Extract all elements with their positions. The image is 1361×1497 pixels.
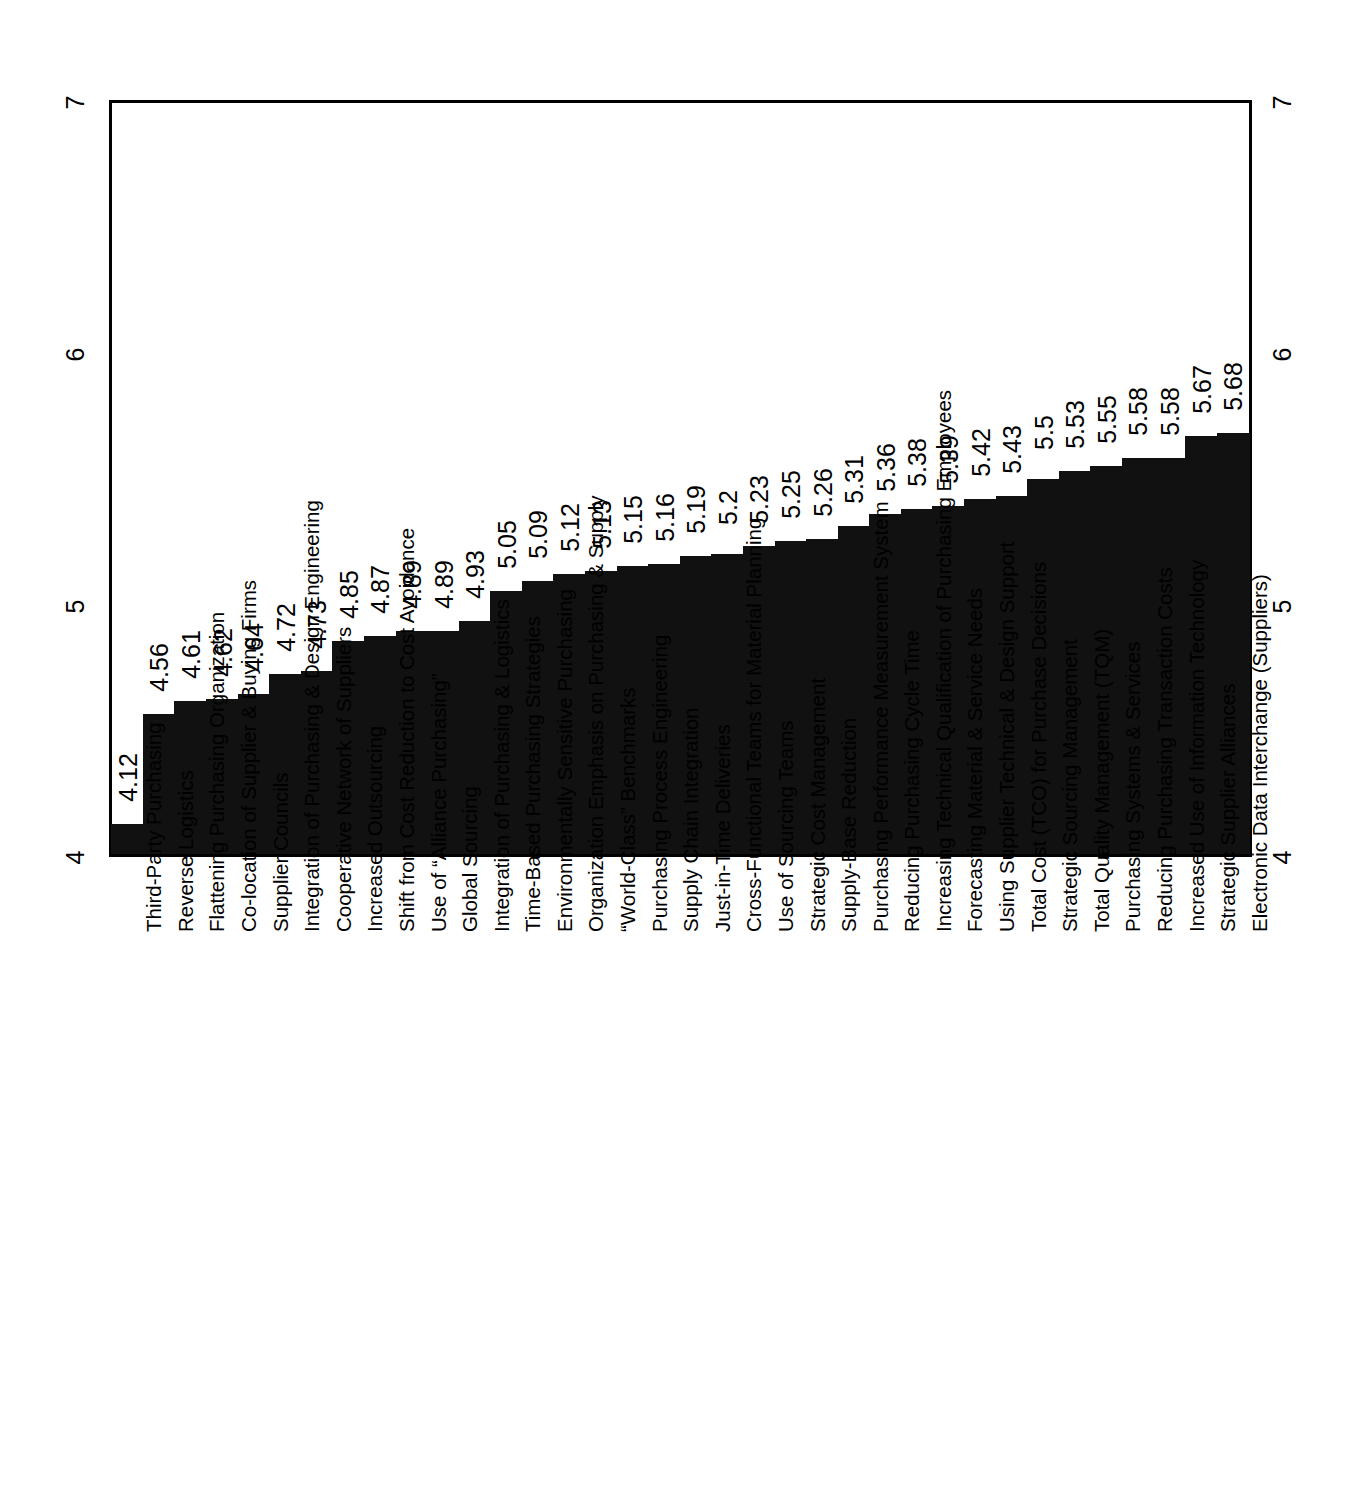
x-axis-label: Purchasing Process Engineering (650, 866, 671, 899)
bar-value-label: 4.56 (147, 643, 172, 692)
x-axis-label-text: Use of Sourcing Teams (776, 899, 797, 932)
bar-value-label: 4.93 (463, 550, 488, 599)
bar-value-label: 5.5 (1031, 415, 1056, 450)
bar-value-label: 5.16 (652, 493, 677, 542)
x-axis-label-text: Increased Outsourcing (365, 899, 386, 932)
x-axis-label: Supply-Base Reduction (839, 866, 860, 899)
bar-value-label: 5.15 (621, 495, 646, 544)
x-axis-label-text: Third-Party Purchasing (144, 899, 165, 932)
x-axis-label-text: Reverse Logistics (176, 899, 197, 932)
x-axis-label: Third-Party Purchasing (144, 866, 165, 899)
y-tick-right-4: 4 (1270, 838, 1295, 878)
bar-value-label: 5.67 (1189, 365, 1214, 414)
x-axis-label-text: Supply Chain Integration (681, 899, 702, 932)
x-axis-label: Increased Outsourcing (365, 866, 386, 899)
x-axis-label-text: Supplier Councils (271, 899, 292, 932)
x-axis-label-text: Environmentally Sensitive Purchasing (555, 899, 576, 932)
x-axis-label-text: Reducing Purchasing Transaction Costs (1155, 899, 1176, 932)
x-axis-label-text: Flattening Purchasing Organization (207, 899, 228, 932)
x-axis-label: Cross-Functional Teams for Material Plan… (744, 866, 765, 899)
bar-value-label: 4.12 (115, 753, 140, 802)
x-axis-label-text: Strategic Cost Management (808, 899, 829, 932)
x-axis-label-text: Time-Based Purchasing Strategies (523, 899, 544, 932)
x-axis-label-text: Increased Use of Information Technology (1187, 899, 1208, 932)
bar-value-label: 5.42 (968, 428, 993, 477)
y-tick-left-4: 4 (63, 838, 88, 878)
bar-value-label: 4.61 (178, 630, 203, 679)
bar-value-label: 5.38 (905, 438, 930, 487)
x-axis-label: Electronic Data Interchange (Suppliers) (1250, 866, 1271, 899)
bar-value-label: 5.43 (1000, 425, 1025, 474)
bar-value-label: 5.58 (1126, 388, 1151, 437)
y-tick-left-6: 6 (63, 335, 88, 375)
x-axis-label-text: Co-location of Supplier & Buying Firms (239, 899, 260, 932)
x-axis-label-text: Cooperative Network of Suppliers (334, 899, 355, 932)
x-axis-label: Strategic Sourcing Management (1060, 866, 1081, 899)
bar-column: 4.72 (269, 103, 302, 854)
x-axis-label: Integration of Purchasing & Design Engin… (302, 866, 323, 899)
bar-value-label: 5.68 (1221, 363, 1246, 412)
bar-value-label: 5.23 (747, 475, 772, 524)
bar-value-label: 5.58 (1158, 388, 1183, 437)
x-axis-label: Purchasing Performance Measurement Syste… (871, 866, 892, 899)
bar-chart-figure: 7 6 5 4 7 6 5 4 4.124.564.614.624.644.72… (0, 0, 1361, 1497)
bar-value-label: 4.85 (336, 570, 361, 619)
x-axis-label: Strategic Cost Management (808, 866, 829, 899)
x-axis-label: Flattening Purchasing Organization (207, 866, 228, 899)
x-axis-label: Just-in-Time Deliveries (713, 866, 734, 899)
x-axis-label-text: Total Quality Management (TQM) (1092, 899, 1113, 932)
x-axis-label: Total Quality Management (TQM) (1092, 866, 1113, 899)
bar-column: 4.93 (459, 103, 492, 854)
x-axis-label-text: Electronic Data Interchange (Suppliers) (1250, 899, 1271, 932)
x-axis-label: Use of Sourcing Teams (776, 866, 797, 899)
bar-value-label: 5.55 (1094, 395, 1119, 444)
x-axis-label: Cooperative Network of Suppliers (334, 866, 355, 899)
x-axis-label: Shift from Cost Reduction to Cost Avoida… (397, 866, 418, 899)
x-axis-label: Time-Based Purchasing Strategies (523, 866, 544, 899)
x-axis-label: Increasing Technical Qualification of Pu… (934, 866, 955, 899)
x-axis-label: Supply Chain Integration (681, 866, 702, 899)
x-axis-label-text: Cross-Functional Teams for Material Plan… (744, 899, 765, 932)
x-axis-label: Strategic Supplier Alliances (1218, 866, 1239, 899)
bar-value-label: 5.19 (684, 485, 709, 534)
x-axis-label-text: Purchasing Performance Measurement Syste… (871, 899, 892, 932)
bar-value-label: 4.87 (368, 565, 393, 614)
bar-value-label: 4.89 (431, 560, 456, 609)
x-axis-label-text: Forecasting Material & Service Needs (965, 899, 986, 932)
x-axis-label: “World-Class” Benchmarks (618, 866, 639, 899)
x-axis-label-text: Increasing Technical Qualification of Pu… (934, 899, 955, 932)
bar-value-label: 5.12 (557, 503, 582, 552)
bar-value-label: 5.26 (810, 468, 835, 517)
x-axis-label-text: Reducing Purchasing Cycle Time (902, 899, 923, 932)
x-axis-label: Supplier Councils (271, 866, 292, 899)
x-axis-label-text: Strategic Supplier Alliances (1218, 899, 1239, 932)
x-axis-label: Integration of Purchasing & Logistics (492, 866, 513, 899)
y-tick-right-5: 5 (1270, 587, 1295, 627)
x-axis-label-text: Global Sourcing (460, 899, 481, 932)
y-tick-left-5: 5 (63, 587, 88, 627)
y-tick-left-7: 7 (63, 83, 88, 123)
x-axis-label-text: Shift from Cost Reduction to Cost Avoida… (397, 899, 418, 932)
x-axis-label-text: Integration of Purchasing & Logistics (492, 899, 513, 932)
x-axis-label-text: Purchasing Systems & Services (1123, 899, 1144, 932)
x-axis-label: Purchasing Systems & Services (1123, 866, 1144, 899)
bar-column: 4.12 (111, 103, 144, 854)
x-axis-label: Total Cost (TCO) for Purchase Decisions (1029, 866, 1050, 899)
x-axis-label: Reducing Purchasing Transaction Costs (1155, 866, 1176, 899)
bar-value-label: 5.2 (715, 490, 740, 525)
bar-value-label: 5.09 (526, 510, 551, 559)
bar-value-label: 5.36 (873, 443, 898, 492)
x-axis-label-text: “World-Class” Benchmarks (618, 899, 639, 932)
x-axis-label: Global Sourcing (460, 866, 481, 899)
bar-value-label: 5.05 (494, 520, 519, 569)
x-axis-label-text: Integration of Purchasing & Design Engin… (302, 899, 323, 932)
x-axis-label-text: Total Cost (TCO) for Purchase Decisions (1029, 899, 1050, 932)
x-axis-label: Environmentally Sensitive Purchasing (555, 866, 576, 899)
bar-value-label: 5.31 (842, 455, 867, 504)
x-axis-label: Reducing Purchasing Cycle Time (902, 866, 923, 899)
x-axis-label: Reverse Logistics (176, 866, 197, 899)
y-tick-right-6: 6 (1270, 335, 1295, 375)
x-axis-label-text: Just-in-Time Deliveries (713, 899, 734, 932)
x-axis-label-text: Organization Emphasis on Purchasing & Su… (586, 899, 607, 932)
y-tick-right-7: 7 (1270, 83, 1295, 123)
